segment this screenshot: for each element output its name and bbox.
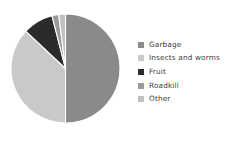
pie-slice[interactable] [66,14,120,123]
legend-label: Garbage [149,41,181,49]
legend-label: Fruit [149,68,166,76]
legend-item-garbage[interactable]: Garbage [138,38,234,52]
legend-swatch-icon [138,83,144,89]
legend-item-insects-and-worms[interactable]: Insects and worms [138,52,234,66]
legend-item-roadkill[interactable]: Roadkill [138,79,234,93]
pie-plot-area [10,13,121,124]
legend-swatch-icon [138,69,144,75]
legend-item-other[interactable]: Other [138,92,234,106]
chart-legend: Garbage Insects and worms Fruit Roadkill… [138,38,234,106]
pie-svg [10,13,121,124]
legend-item-fruit[interactable]: Fruit [138,65,234,79]
legend-label: Roadkill [149,82,179,90]
legend-swatch-icon [138,42,144,48]
legend-label: Insects and worms [149,54,220,62]
pie-slice-group [11,14,120,123]
legend-label: Other [149,95,170,103]
legend-swatch-icon [138,96,144,102]
pie-chart-figure: Garbage Insects and worms Fruit Roadkill… [0,0,235,141]
legend-swatch-icon [138,55,144,61]
